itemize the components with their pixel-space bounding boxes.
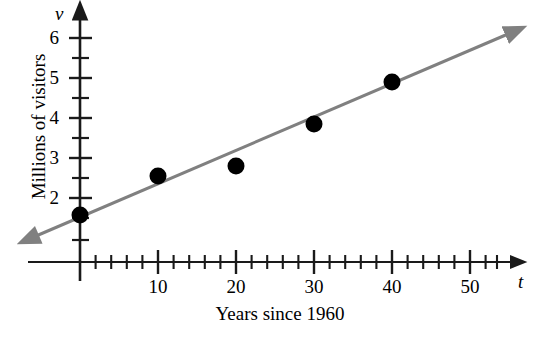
x-tick-label-50: 50	[450, 277, 490, 296]
x-tick-label-10: 10	[138, 277, 178, 296]
trend-line	[36, 34, 508, 236]
x-tick-label-40: 40	[372, 277, 412, 296]
x-tick-label-20: 20	[216, 277, 256, 296]
data-point	[228, 158, 245, 175]
data-point	[384, 74, 401, 91]
y-axis-variable-label: v	[55, 4, 63, 23]
x-axis-title: Years since 1960	[130, 304, 430, 323]
x-tick-label-30: 30	[294, 277, 334, 296]
data-point	[306, 116, 323, 133]
chart-figure: v t 6 5 4 3 2 10 20 30 40 50 Years since…	[0, 0, 540, 337]
x-axis-variable-label: t	[518, 272, 523, 291]
data-point	[150, 168, 167, 185]
y-axis-title: Millions of visitors	[29, 27, 48, 227]
data-point	[72, 207, 89, 224]
